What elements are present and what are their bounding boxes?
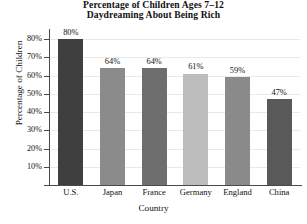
bar-value-label: 64% — [146, 58, 161, 66]
bar-value-label: 47% — [271, 89, 286, 97]
bar[interactable]: 80% — [58, 39, 83, 185]
y-axis-tick-label: 50% — [16, 90, 42, 98]
y-axis-tick-label: 30% — [16, 126, 42, 134]
y-axis-tick-label: 10% — [16, 163, 42, 171]
y-axis-tick-label: 70% — [16, 53, 42, 61]
bar-value-label: 64% — [105, 58, 120, 66]
bar[interactable]: 64% — [142, 68, 167, 185]
bar-chart: Percentage of Children Ages 7–12 Daydrea… — [0, 0, 307, 224]
y-axis-tick-label: 60% — [16, 72, 42, 80]
bar[interactable]: 64% — [100, 68, 125, 185]
y-axis-title: Percentage of Children — [14, 8, 24, 158]
x-axis-tick-label: China — [251, 188, 307, 197]
y-axis-tick-label: 80% — [16, 35, 42, 43]
chart-title-line-2: Daydreaming About Being Rich — [0, 10, 307, 20]
x-axis-line — [44, 185, 302, 186]
bar-value-label: 61% — [188, 63, 203, 71]
y-axis-tick-label: 20% — [16, 145, 42, 153]
bar[interactable]: 59% — [225, 77, 250, 185]
y-axis-tick-label: 40% — [16, 108, 42, 116]
bar-value-label: 80% — [63, 29, 78, 37]
bar[interactable]: 61% — [183, 74, 208, 185]
plot-area: 80%64%64%61%59%47% — [50, 30, 300, 185]
chart-title: Percentage of Children Ages 7–12 Daydrea… — [0, 0, 307, 20]
bar-value-label: 59% — [230, 67, 245, 75]
bar[interactable]: 47% — [267, 99, 292, 185]
x-axis-title: Country — [0, 203, 307, 213]
